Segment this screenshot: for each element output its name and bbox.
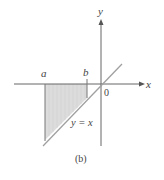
x-axis-arrow-icon xyxy=(139,82,145,87)
b-label: b xyxy=(83,66,89,78)
y-axis-arrow-icon xyxy=(99,19,104,25)
origin-label: 0 xyxy=(104,87,109,98)
shaded-region xyxy=(45,84,87,140)
curve-label: y = x xyxy=(70,117,93,128)
a-label: a xyxy=(41,67,47,79)
diagram: a b x y 0 y = x (b) xyxy=(0,0,164,180)
y-axis-label: y xyxy=(97,5,103,17)
x-axis-label: x xyxy=(145,78,151,90)
figure-caption: (b) xyxy=(75,153,87,165)
